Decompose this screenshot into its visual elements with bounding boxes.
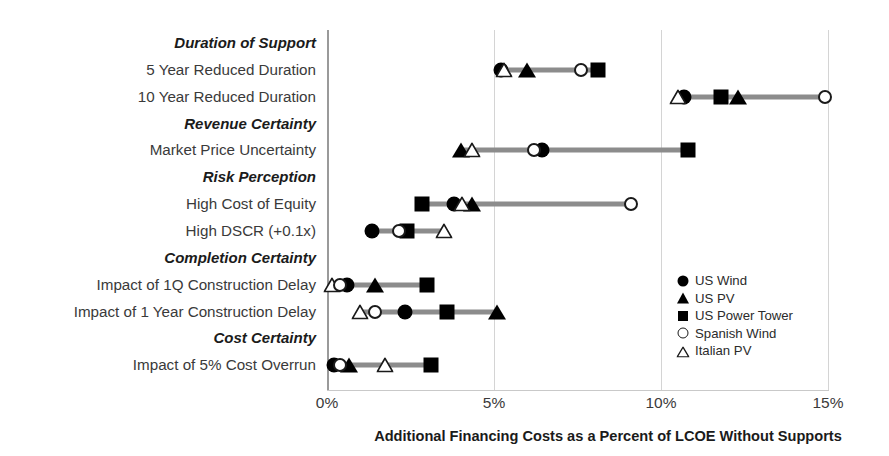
legend-marker-triangle-open-icon (676, 344, 690, 358)
x-tick-label: 10% (645, 394, 676, 412)
series-row (327, 85, 828, 109)
row-label: High Cost of Equity (186, 195, 316, 213)
financing-costs-dot-chart: Duration of Support5 Year Reduced Durati… (0, 0, 889, 456)
legend-label: US Wind (695, 273, 747, 288)
legend-label: US Power Tower (695, 308, 793, 323)
x-tick-label: 0% (316, 394, 338, 412)
legend-item: US Power Tower (676, 307, 793, 325)
x-axis-title: Additional Financing Costs as a Percent … (327, 428, 889, 444)
row-label: High DSCR (+0.1x) (186, 222, 316, 240)
legend-item: Spanish Wind (676, 325, 793, 343)
legend-label: Italian PV (695, 343, 751, 358)
legend-marker-triangle-filled-icon (676, 291, 690, 305)
x-tick-label: 5% (483, 394, 505, 412)
category-label: Risk Perception (203, 168, 316, 186)
row-label: Impact of 1 Year Construction Delay (74, 303, 316, 321)
x-axis-line (327, 390, 829, 391)
gridline-15pct (828, 30, 829, 390)
legend-label: Spanish Wind (695, 326, 776, 341)
series-row (327, 219, 828, 243)
category-label: Completion Certainty (164, 249, 316, 267)
legend-item: US Wind (676, 272, 793, 290)
x-tick-label: 15% (812, 394, 843, 412)
category-label: Duration of Support (174, 34, 316, 52)
legend-item: US PV (676, 290, 793, 308)
row-label: Impact of 5% Cost Overrun (133, 356, 316, 374)
legend: US WindUS PVUS Power TowerSpanish WindIt… (676, 272, 793, 360)
legend-marker-square-filled-icon (676, 309, 690, 323)
row-label: Market Price Uncertainty (150, 141, 316, 159)
series-row (327, 58, 828, 82)
category-label: Cost Certainty (213, 329, 316, 347)
legend-marker-circle-open-icon (676, 326, 690, 340)
legend-marker-circle-filled-icon (676, 274, 690, 288)
connector-line (461, 148, 688, 153)
legend-item: Italian PV (676, 342, 793, 360)
row-label: 10 Year Reduced Duration (138, 88, 316, 106)
connector-line (678, 94, 825, 99)
row-labels-column: Duration of Support5 Year Reduced Durati… (0, 30, 322, 390)
legend-label: US PV (695, 291, 735, 306)
series-row (327, 138, 828, 162)
row-label: 5 Year Reduced Duration (146, 61, 316, 79)
series-row (327, 192, 828, 216)
category-label: Revenue Certainty (184, 115, 316, 133)
row-label: Impact of 1Q Construction Delay (97, 276, 316, 294)
